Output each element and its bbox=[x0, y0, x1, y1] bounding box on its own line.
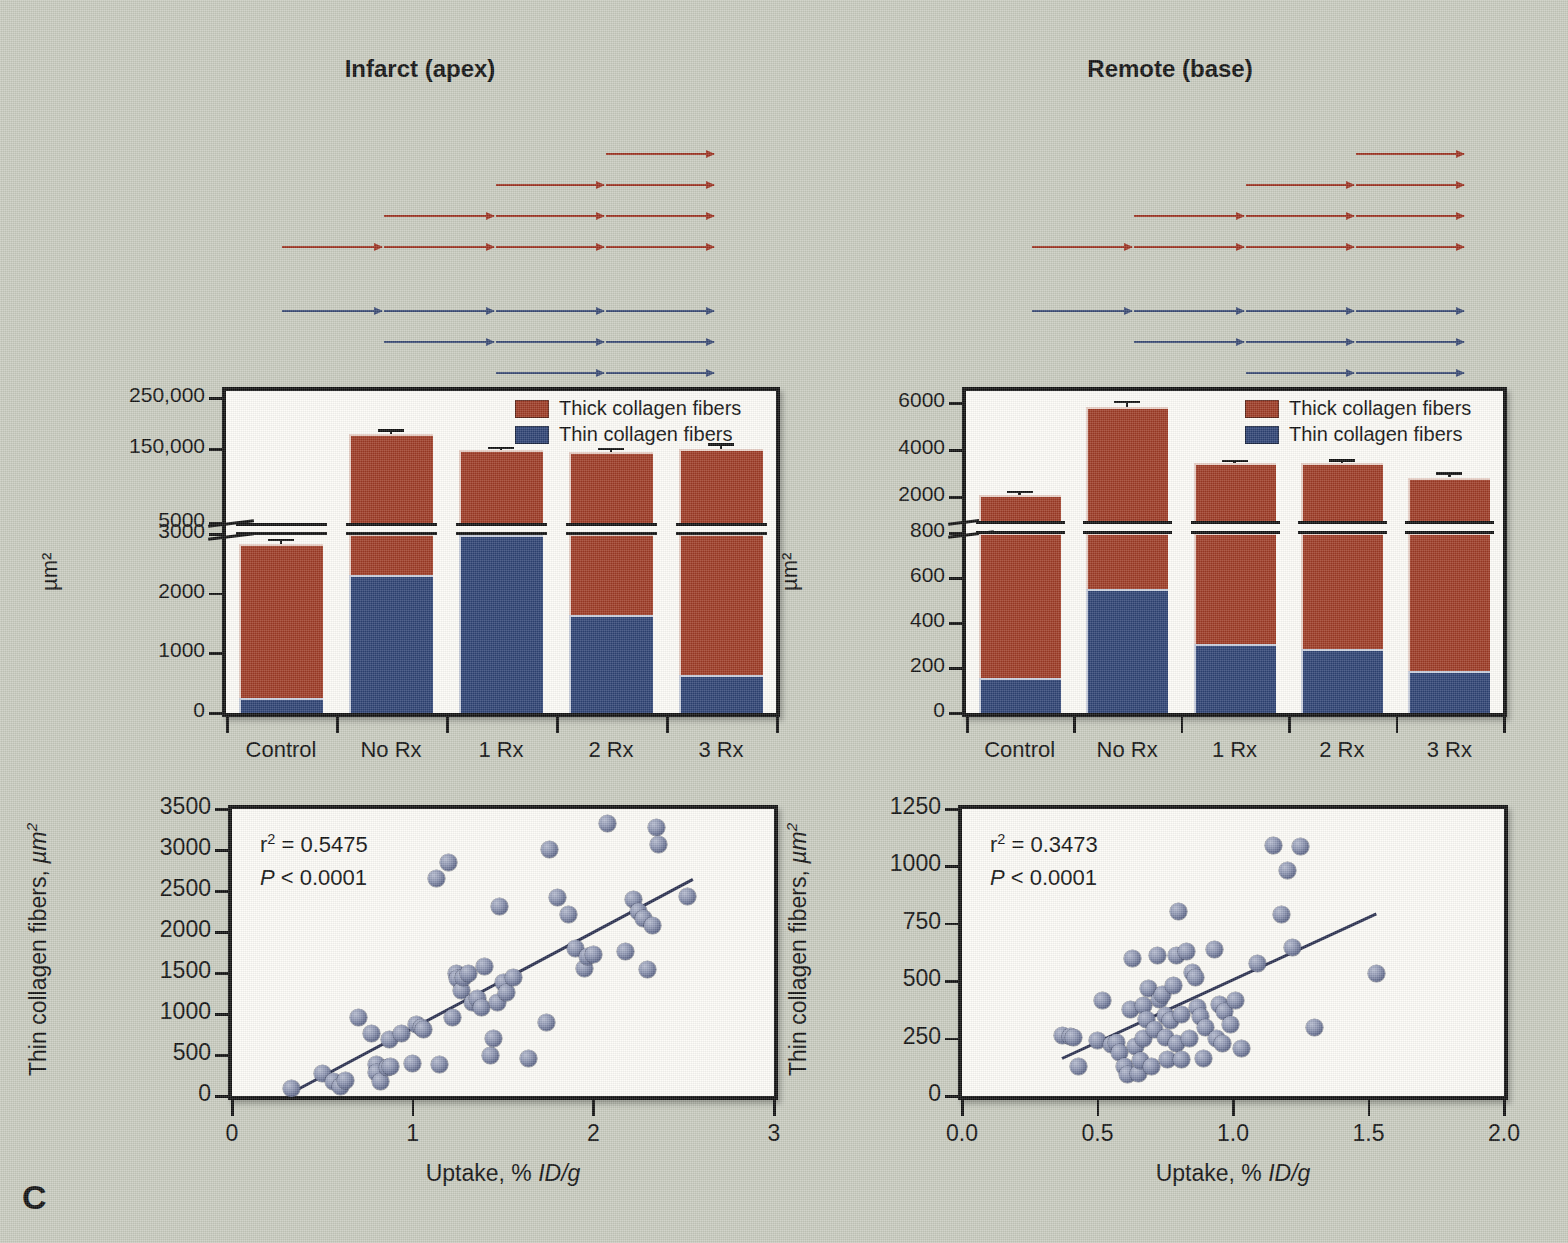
legend-swatch-thin-icon bbox=[1245, 426, 1279, 444]
arrow-shaft bbox=[1246, 215, 1354, 217]
bar-thick-lower-bar-remote-base-3 bbox=[1301, 533, 1383, 649]
bar-break-rule-top-bar-remote-base-1 bbox=[1083, 531, 1172, 534]
data-point-scatter-infarct-apex-39 bbox=[538, 1014, 555, 1031]
sc-ytick-label-scatter-infarct-apex-7: 3500 bbox=[93, 793, 211, 820]
ytick-label-bar-infarct-apex-2: 2000 bbox=[47, 579, 205, 603]
ytick-label-bar-remote-base-1: 200 bbox=[787, 653, 945, 677]
ytick-label-bar-remote-base-0: 0 bbox=[787, 698, 945, 722]
error-bar-cap bbox=[488, 447, 514, 450]
arrow-head-icon bbox=[1456, 150, 1465, 158]
arrow-shaft bbox=[1356, 372, 1464, 374]
error-bar-cap bbox=[378, 429, 404, 432]
arrow-shaft bbox=[1246, 372, 1354, 374]
xtick-mark-bar-remote-base-end bbox=[1503, 717, 1506, 733]
data-point-scatter-remote-base-22 bbox=[1149, 947, 1166, 964]
sc-ytick-mark-scatter-remote-base-2 bbox=[945, 980, 958, 983]
stats-arrow-R-thick-1-3 bbox=[1356, 181, 1464, 189]
data-point-scatter-infarct-apex-17 bbox=[415, 1021, 432, 1038]
stats-arrow-R-thin-2-3 bbox=[1356, 369, 1464, 377]
bar-thick-lower-bar-remote-base-4 bbox=[1408, 533, 1490, 671]
arrow-head-icon bbox=[706, 150, 715, 158]
bar-thin-bar-remote-base-2 bbox=[1194, 644, 1276, 713]
bar-thick-upper-bar-remote-base-0 bbox=[979, 495, 1061, 521]
sc-ytick-mark-scatter-infarct-apex-7 bbox=[215, 808, 228, 811]
arrow-head-icon bbox=[486, 212, 495, 220]
sc-xtick-mark-scatter-infarct-apex-1 bbox=[412, 1100, 415, 1116]
error-bar-bar-remote-base-0 bbox=[1007, 491, 1033, 495]
sc-ytick-label-scatter-remote-base-1: 250 bbox=[823, 1023, 941, 1050]
legend-swatch-thin-icon bbox=[515, 426, 549, 444]
sc-xtick-mark-scatter-infarct-apex-2 bbox=[592, 1100, 595, 1116]
arrow-head-icon bbox=[596, 243, 605, 251]
bar-break-rule-bottom-bar-remote-base-4 bbox=[1405, 521, 1494, 524]
bar-thick-lower-bar-infarct-apex-1 bbox=[349, 534, 433, 575]
sc-pvalue-annotation-scatter-infarct-apex: P < 0.0001 bbox=[260, 865, 367, 891]
error-bar-bar-infarct-apex-0 bbox=[268, 539, 294, 544]
stats-arrow-R-thin-1-1 bbox=[1134, 338, 1244, 346]
legend-bar-infarct-apex: Thick collagen fibersThin collagen fiber… bbox=[515, 400, 815, 456]
stats-arrow-R-thin-0-2 bbox=[1246, 307, 1354, 315]
xtick-mark-bar-remote-base-3 bbox=[1288, 717, 1291, 733]
data-point-scatter-infarct-apex-34 bbox=[491, 898, 508, 915]
bar-thin-bar-remote-base-1 bbox=[1086, 589, 1168, 713]
sc-xtick-mark-scatter-remote-base-2 bbox=[1232, 1100, 1235, 1116]
bar-thin-bar-infarct-apex-3 bbox=[569, 615, 653, 713]
data-point-scatter-remote-base-48 bbox=[1222, 1016, 1239, 1033]
arrow-head-icon bbox=[596, 212, 605, 220]
error-bar-bar-infarct-apex-1 bbox=[378, 429, 404, 434]
sc-ytick-mark-scatter-infarct-apex-3 bbox=[215, 972, 228, 975]
stats-arrow-L-thick-3-2 bbox=[496, 243, 604, 251]
arrow-head-icon bbox=[706, 369, 715, 377]
data-point-scatter-remote-base-46 bbox=[1214, 1035, 1231, 1052]
panel-title-infarct: Infarct (apex) bbox=[290, 55, 550, 83]
arrow-shaft bbox=[384, 341, 494, 343]
bar-thick-upper-bar-remote-base-4 bbox=[1408, 478, 1490, 521]
arrow-head-icon bbox=[706, 212, 715, 220]
stats-arrow-L-thick-3-0 bbox=[282, 243, 382, 251]
data-point-scatter-remote-base-38 bbox=[1187, 969, 1204, 986]
legend-swatch-thick-icon bbox=[1245, 400, 1279, 418]
arrow-shaft bbox=[1356, 310, 1464, 312]
ytick-label-bar-remote-base-5: 2000 bbox=[787, 482, 945, 506]
arrow-shaft bbox=[606, 310, 714, 312]
ytick-mark-bar-remote-base-2 bbox=[949, 622, 962, 625]
bar-thin-bar-remote-base-4 bbox=[1408, 671, 1490, 713]
arrow-shaft bbox=[1356, 246, 1464, 248]
bar-break-rule-bottom-bar-remote-base-1 bbox=[1083, 521, 1172, 524]
bar-break-rule-bottom-bar-infarct-apex-3 bbox=[566, 523, 657, 526]
bar-break-rule-bottom-bar-remote-base-3 bbox=[1298, 521, 1387, 524]
bar-break-rule-bottom-bar-remote-base-2 bbox=[1191, 521, 1280, 524]
ytick-mark-bar-infarct-apex-2 bbox=[209, 593, 222, 596]
xtick-mark-bar-infarct-apex-3 bbox=[556, 717, 559, 733]
ytick-mark-bar-infarct-apex-6 bbox=[209, 397, 222, 400]
arrow-head-icon bbox=[706, 338, 715, 346]
data-point-scatter-remote-base-50 bbox=[1233, 1040, 1250, 1057]
arrow-shaft bbox=[384, 246, 494, 248]
data-point-scatter-infarct-apex-0 bbox=[283, 1080, 300, 1097]
arrow-shaft bbox=[496, 310, 604, 312]
arrow-head-icon bbox=[1236, 338, 1245, 346]
data-point-scatter-infarct-apex-14 bbox=[404, 1055, 421, 1072]
ytick-label-bar-remote-base-6: 4000 bbox=[787, 435, 945, 459]
legend-label-thin: Thin collagen fibers bbox=[559, 423, 732, 446]
data-point-scatter-infarct-apex-38 bbox=[520, 1050, 537, 1067]
ytick-label-bar-infarct-apex-6: 250,000 bbox=[47, 383, 205, 407]
bar-thick-upper-bar-remote-base-2 bbox=[1194, 463, 1276, 521]
stats-arrow-L-thick-2-3 bbox=[606, 212, 714, 220]
ytick-mark-bar-infarct-apex-0 bbox=[209, 712, 222, 715]
arrow-head-icon bbox=[1456, 369, 1465, 377]
bar-thick-upper-bar-infarct-apex-1 bbox=[349, 434, 433, 523]
stats-arrow-R-thick-3-1 bbox=[1134, 243, 1244, 251]
ytick-mark-bar-infarct-apex-1 bbox=[209, 652, 222, 655]
bar-thick-lower-bar-infarct-apex-0 bbox=[239, 544, 323, 699]
data-point-scatter-infarct-apex-19 bbox=[431, 1056, 448, 1073]
arrow-head-icon bbox=[486, 243, 495, 251]
bar-thin-bar-infarct-apex-4 bbox=[679, 675, 763, 713]
data-point-scatter-remote-base-41 bbox=[1195, 1050, 1212, 1067]
stats-arrow-R-thin-0-3 bbox=[1356, 307, 1464, 315]
stats-arrow-R-thick-2-2 bbox=[1246, 212, 1354, 220]
sc-pvalue-annotation-scatter-remote-base: P < 0.0001 bbox=[990, 865, 1097, 891]
sc-ytick-label-scatter-remote-base-3: 750 bbox=[823, 908, 941, 935]
ytick-label-bar-infarct-apex-4: 5000 bbox=[47, 508, 205, 532]
ytick-label-bar-remote-base-7: 6000 bbox=[787, 388, 945, 412]
